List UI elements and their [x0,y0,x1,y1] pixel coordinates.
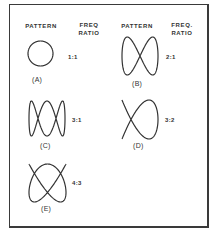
header-pattern-right: PATTERN [120,22,154,30]
caption-e: (E) [41,205,51,212]
header-ratio-left: RATIO [78,29,100,37]
lissajous-pattern-c [28,100,66,137]
ratio-label-d: 3:2 [165,117,175,123]
ratio-label-b: 2:1 [166,54,176,60]
caption-a: (A) [32,76,42,83]
header-freq-right: FREQ. [170,21,194,29]
lissajous-pattern-d [121,99,159,140]
ratio-label-e: 4:3 [72,180,82,186]
lissajous-pattern-b [121,36,159,76]
ratio-label-c: 3:1 [72,117,82,123]
lissajous-pattern-e [28,163,67,203]
header-ratio-right: RATIO [170,29,194,37]
header-freq-left: FREQ [78,21,100,29]
header-pattern-left: PATTERN [25,22,57,30]
lissajous-pattern-a [27,40,54,67]
caption-d: (D) [133,142,144,149]
ratio-label-a: 1:1 [68,54,78,60]
caption-c: (C) [40,142,51,149]
caption-b: (B) [132,80,142,87]
